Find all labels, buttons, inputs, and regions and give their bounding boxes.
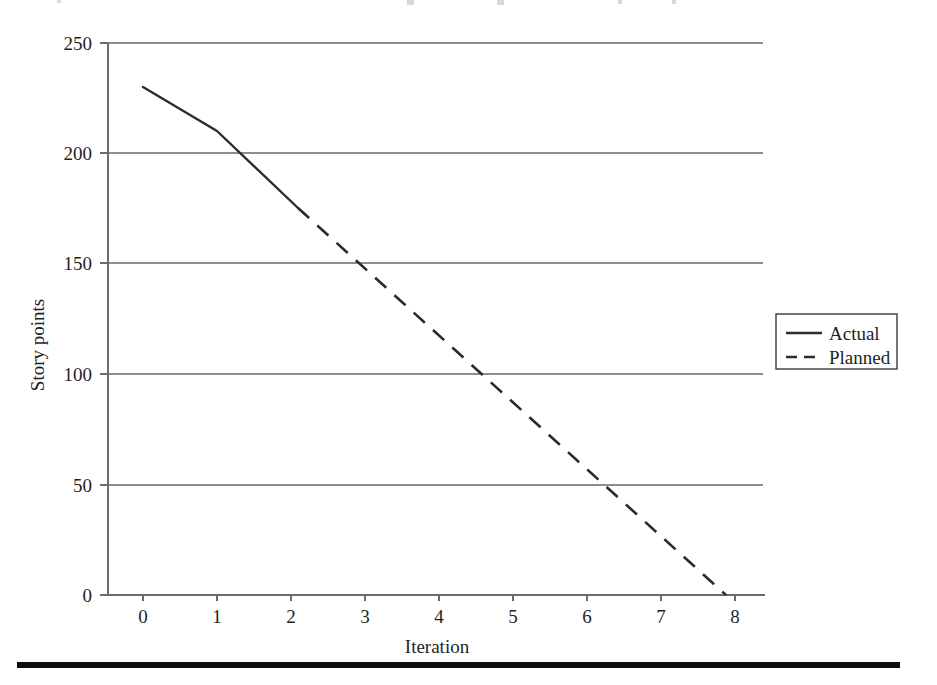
y-tick-label-50: 50: [73, 475, 92, 496]
series-line-actual: [143, 87, 298, 208]
y-tick-label-200: 200: [64, 143, 93, 164]
x-tick-label-8: 8: [730, 606, 740, 627]
y-tick-label-100: 100: [64, 364, 93, 385]
burndown-chart: 250 200 150 100 50 0 0 1 2 3 4 5 6 7: [0, 0, 937, 685]
legend[interactable]: Actual Planned: [776, 314, 897, 369]
gridlines: [108, 43, 763, 485]
y-axis-ticks: 250 200 150 100 50 0: [64, 33, 109, 606]
x-axis-title: Iteration: [405, 636, 470, 657]
scan-artifact-top: [57, 0, 676, 5]
x-tick-label-1: 1: [212, 606, 222, 627]
x-tick-label-3: 3: [360, 606, 370, 627]
chart-page: 250 200 150 100 50 0 0 1 2 3 4 5 6 7: [0, 0, 937, 685]
y-tick-label-0: 0: [83, 585, 93, 606]
page-bottom-rule: [17, 662, 900, 668]
legend-label-actual: Actual: [829, 323, 880, 344]
x-tick-label-5: 5: [508, 606, 518, 627]
y-tick-label-250: 250: [64, 33, 93, 54]
x-axis-ticks: 0 1 2 3 4 5 6 7 8: [138, 595, 740, 627]
x-tick-label-2: 2: [286, 606, 296, 627]
y-tick-label-150: 150: [64, 253, 93, 274]
x-tick-label-0: 0: [138, 606, 148, 627]
x-tick-label-4: 4: [434, 606, 444, 627]
series-line-planned: [298, 208, 726, 595]
x-tick-label-7: 7: [656, 606, 666, 627]
y-axis-title: Story points: [27, 299, 48, 391]
x-tick-label-6: 6: [582, 606, 592, 627]
legend-label-planned: Planned: [829, 347, 891, 368]
